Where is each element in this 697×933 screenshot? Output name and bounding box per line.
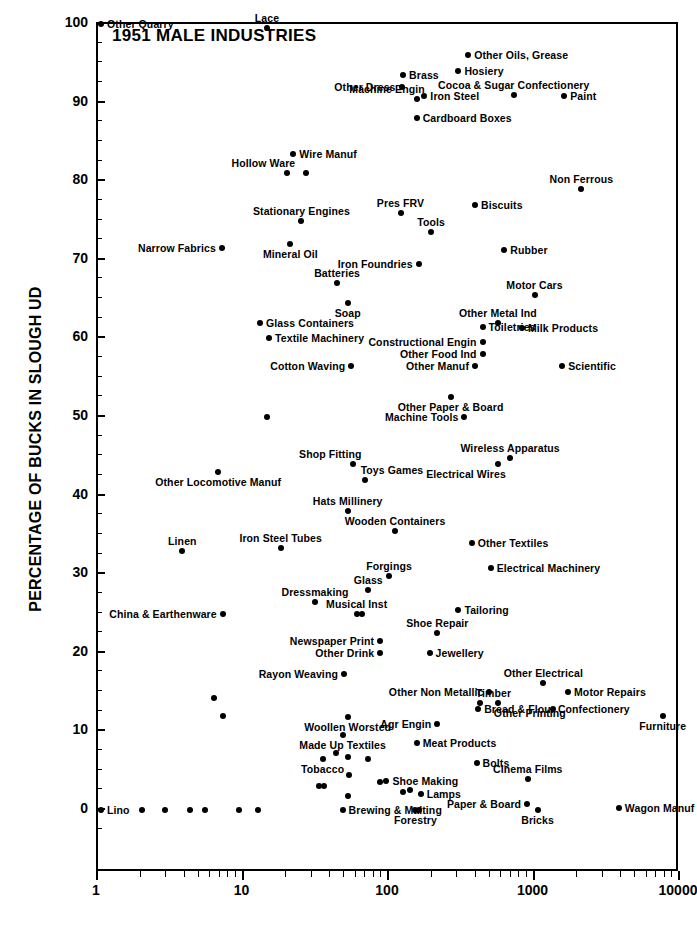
y-tick-label: 60 bbox=[0, 328, 88, 344]
data-point bbox=[346, 772, 352, 778]
x-tick-minor bbox=[227, 871, 228, 877]
data-point bbox=[448, 394, 454, 400]
data-point bbox=[345, 714, 351, 720]
data-point bbox=[507, 455, 513, 461]
data-point-label: Linen bbox=[168, 535, 197, 546]
y-tick-label: 70 bbox=[0, 250, 88, 266]
data-point bbox=[377, 779, 383, 785]
data-point bbox=[215, 469, 221, 475]
data-point bbox=[341, 671, 347, 677]
data-point-label: Other Food Ind bbox=[400, 349, 477, 360]
data-point bbox=[98, 21, 104, 27]
x-tick-major bbox=[678, 871, 680, 880]
data-point bbox=[532, 292, 538, 298]
data-point-label: Wireless Apparatus bbox=[460, 442, 559, 453]
data-point bbox=[434, 630, 440, 636]
data-point bbox=[660, 713, 666, 719]
y-tick-label: 40 bbox=[0, 486, 88, 502]
data-point-label: Musical Inst bbox=[326, 598, 387, 609]
data-point bbox=[472, 202, 478, 208]
x-tick-label: 10 bbox=[234, 882, 250, 898]
data-point bbox=[340, 732, 346, 738]
data-point bbox=[139, 807, 145, 813]
x-tick-minor bbox=[431, 871, 432, 877]
y-tick-label: 20 bbox=[0, 643, 88, 659]
data-point bbox=[524, 801, 530, 807]
data-point-label: Tobacco bbox=[301, 763, 344, 774]
data-point-label: Other Oils, Grease bbox=[474, 50, 568, 61]
data-point-label: Textile Machinery bbox=[275, 333, 364, 344]
y-tick-label: 30 bbox=[0, 564, 88, 580]
data-point-label: Narrow Fabrics bbox=[138, 243, 216, 254]
data-point bbox=[220, 713, 226, 719]
data-point bbox=[219, 245, 225, 251]
data-point-label: Rayon Weaving bbox=[259, 669, 338, 680]
x-tick-minor bbox=[620, 871, 621, 877]
x-tick-minor bbox=[475, 871, 476, 877]
data-point bbox=[236, 807, 242, 813]
data-point bbox=[421, 93, 427, 99]
data-point-label: Glass bbox=[354, 574, 383, 585]
data-point-label: Hats Millinery bbox=[313, 496, 383, 507]
data-point bbox=[278, 545, 284, 551]
data-point bbox=[414, 96, 420, 102]
data-point bbox=[202, 807, 208, 813]
data-point bbox=[287, 241, 293, 247]
data-point-label: Other Locomotive Manuf bbox=[155, 477, 281, 488]
data-point bbox=[359, 611, 365, 617]
data-point bbox=[312, 599, 318, 605]
data-point-label: Tools bbox=[417, 217, 445, 228]
data-point bbox=[540, 680, 546, 686]
data-point-label: Shoe Repair bbox=[406, 618, 468, 629]
data-point bbox=[559, 363, 565, 369]
x-tick-minor bbox=[634, 871, 635, 877]
y-tick-label: 100 bbox=[0, 14, 88, 30]
x-tick-minor bbox=[364, 871, 365, 877]
x-tick-minor bbox=[671, 871, 672, 877]
data-point-label: Cotton Waving bbox=[270, 360, 345, 371]
x-tick-minor bbox=[343, 871, 344, 877]
x-tick-major bbox=[387, 871, 389, 880]
data-point-label: Non Ferrous bbox=[550, 174, 614, 185]
x-tick-minor bbox=[165, 871, 166, 877]
data-point bbox=[303, 170, 309, 176]
data-point bbox=[525, 776, 531, 782]
x-tick-major bbox=[533, 871, 535, 880]
data-point bbox=[333, 750, 339, 756]
data-point bbox=[398, 210, 404, 216]
y-axis-label: PERCENTAGE OF BUCKS IN SLOUGH UD bbox=[27, 99, 45, 799]
data-point bbox=[578, 186, 584, 192]
data-point bbox=[455, 68, 461, 74]
data-point bbox=[365, 587, 371, 593]
data-point bbox=[350, 461, 356, 467]
data-point-label: Meat Products bbox=[423, 738, 497, 749]
data-point bbox=[266, 335, 272, 341]
x-tick-minor bbox=[373, 871, 374, 877]
data-point-label: Wire Manuf bbox=[299, 148, 357, 159]
data-point-label: Glass Containers bbox=[266, 317, 354, 328]
data-point bbox=[340, 807, 346, 813]
data-point-label: Motor Repairs bbox=[574, 687, 646, 698]
x-tick-minor bbox=[235, 871, 236, 877]
x-tick-label: 1000 bbox=[517, 882, 548, 898]
x-tick-minor bbox=[602, 871, 603, 877]
data-point bbox=[480, 324, 486, 330]
data-point-label: Woollen Worsted bbox=[304, 722, 391, 733]
data-point bbox=[400, 72, 406, 78]
x-tick-minor bbox=[518, 871, 519, 877]
data-point-label: Other Non Metallic bbox=[389, 687, 484, 698]
data-point bbox=[377, 650, 383, 656]
data-point bbox=[565, 689, 571, 695]
data-point-label: Brass bbox=[409, 70, 439, 81]
data-point bbox=[511, 92, 517, 98]
x-tick-minor bbox=[209, 871, 210, 877]
x-tick-label: 10000 bbox=[659, 882, 697, 898]
data-point bbox=[472, 363, 478, 369]
data-point bbox=[98, 807, 104, 813]
x-tick-major bbox=[96, 871, 98, 880]
data-point-label: Shoe Making bbox=[392, 775, 458, 786]
data-point-label: China & Earthenware bbox=[109, 608, 217, 619]
data-point-label: Paint bbox=[570, 91, 596, 102]
data-point bbox=[257, 320, 263, 326]
data-point bbox=[386, 573, 392, 579]
